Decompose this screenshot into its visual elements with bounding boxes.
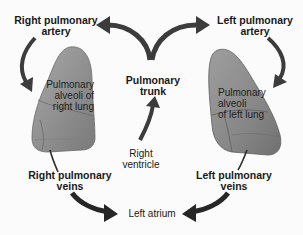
arrow-trunk-to-left-artery [152,16,210,60]
label-pulmonary-trunk: Pulmonary trunk [118,75,188,97]
label-right-pulmonary-veins: Right pulmonary veins [24,170,116,192]
arrow-right-artery-to-lung [20,38,35,92]
arrow-right-veins-to-atrium [72,193,118,222]
label-left-pulmonary-artery: Left pulmonary artery [210,15,300,37]
arrow-ventricle-to-trunk [140,96,160,140]
label-left-atrium: Left atrium [122,208,182,219]
label-left-lung-alveoli: Pulmonary alveoli of left lung [218,87,280,120]
label-right-lung-alveoli: Pulmonary alveoli of right lung [34,79,94,112]
pulmonary-circulation-diagram: Right pulmonary artery Left pulmonary ar… [0,0,303,235]
arrow-left-veins-to-atrium [182,193,228,222]
label-right-ventricle: Right ventricle [110,148,172,170]
arrow-left-artery-to-lung [268,38,287,88]
arrow-trunk-to-right-artery [96,16,150,60]
label-right-pulmonary-artery: Right pulmonary artery [8,15,104,37]
label-left-pulmonary-veins: Left pulmonary veins [192,170,276,192]
